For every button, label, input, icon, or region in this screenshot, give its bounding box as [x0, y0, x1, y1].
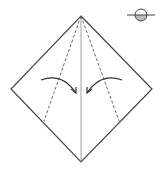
- turn-over-symbol-icon: [127, 9, 155, 21]
- paper-outline: [11, 16, 152, 162]
- origami-diagram: [0, 0, 164, 170]
